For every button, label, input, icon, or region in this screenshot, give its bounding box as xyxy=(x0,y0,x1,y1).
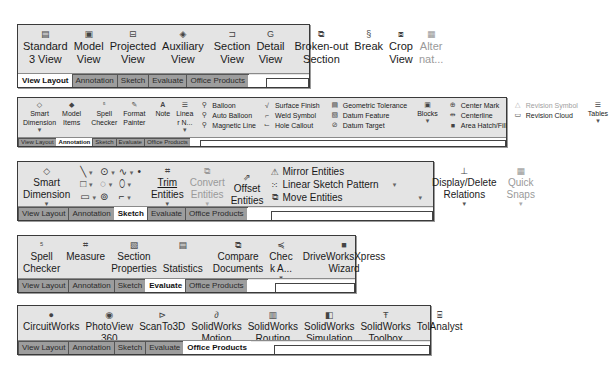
point-tool[interactable]: • xyxy=(137,166,141,177)
commandmanager-tabs: View Layout Annotation Sketch Evaluate O… xyxy=(18,73,309,87)
mirror-entities-button[interactable]: ⚠Mirror Entities xyxy=(270,165,423,178)
measure-button[interactable]: ⌗Measure xyxy=(63,239,108,263)
dropdown-caret-icon[interactable]: ▾ xyxy=(463,201,467,207)
geometric-tolerance-button[interactable]: ▤Geometric Tolerance xyxy=(330,100,407,110)
tab-office-products[interactable]: Office Products xyxy=(144,138,191,146)
tab-office-products[interactable]: Office Products xyxy=(183,341,251,354)
center-mark-button[interactable]: ⊕Center Mark xyxy=(448,100,507,110)
dropdown-caret-icon[interactable]: ▾ xyxy=(426,118,430,124)
quick-snaps-button[interactable]: ▦QuickSnaps▾ xyxy=(504,165,538,207)
tab-view-layout[interactable]: View Layout xyxy=(18,279,69,292)
datum-feature-button[interactable]: ▧Datum Feature xyxy=(330,110,407,120)
tab-annotation[interactable]: Annotation xyxy=(68,207,114,220)
spline-tool[interactable]: ∿ ▾ xyxy=(119,166,134,177)
detail-view-button[interactable]: GDetailView xyxy=(253,28,287,66)
display-delete-relations-button[interactable]: ⊥Display/DeleteRelations▾ xyxy=(429,165,499,207)
tab-view-layout[interactable]: View Layout xyxy=(18,74,73,87)
compare-documents-button[interactable]: ⧉CompareDocuments xyxy=(210,239,267,275)
tab-office-products[interactable]: Office Products xyxy=(185,207,248,220)
circuitworks-button[interactable]: ●CircuitWorks xyxy=(20,309,82,333)
ellipse-tool[interactable]: ⬯ ▾ xyxy=(119,178,134,190)
trim-entities-button[interactable]: ⌗TrimEntities▾ xyxy=(148,165,187,207)
magnetic-line-button[interactable]: ⚲Magnetic Line xyxy=(199,120,256,130)
tab-sketch[interactable]: Sketch xyxy=(114,279,146,292)
spell-checker-button[interactable]: ⁵SpellChecker xyxy=(88,100,120,127)
dropdown-caret-icon[interactable]: ▾ xyxy=(183,127,187,133)
tab-annotation[interactable]: Annotation xyxy=(68,279,114,292)
revision-symbol-button[interactable]: △Revision Symbol xyxy=(513,100,578,110)
datum-target-button[interactable]: ⊘Datum Target xyxy=(330,120,407,130)
fillet-tool[interactable]: ⌐ ▾ xyxy=(119,191,134,202)
dropdown-caret-icon[interactable]: ▾ xyxy=(519,201,523,207)
tab-evaluate[interactable]: Evaluate xyxy=(116,138,145,146)
weld-symbol-button[interactable]: ⌐Weld Symbol xyxy=(262,110,320,120)
solidworks-simulation-icon: ◧ xyxy=(323,309,335,321)
tab-sketch[interactable]: Sketch xyxy=(114,207,148,220)
format-painter-icon: ✎ xyxy=(128,100,140,109)
tab-sketch[interactable]: Sketch xyxy=(114,341,146,354)
area-hatch-fill-button[interactable]: ■Area Hatch/Fill xyxy=(448,120,507,130)
section-properties-button[interactable]: ▧SectionProperties xyxy=(108,239,160,275)
tab-scroll-area xyxy=(271,211,433,220)
tolanalyst-button[interactable]: ⌸TolAnalyst xyxy=(414,309,466,333)
smart-dimension-button[interactable]: ◇SmartDimension▾ xyxy=(20,165,73,207)
tab-evaluate[interactable]: Evaluate xyxy=(145,279,186,292)
slot-tool[interactable]: ▭ ▾ xyxy=(80,191,96,202)
tab-evaluate[interactable]: Evaluate xyxy=(148,74,187,87)
centerline-button[interactable]: ⇹Centerline xyxy=(448,110,507,120)
convert-entities-button[interactable]: ⧉ConvertEntities▾ xyxy=(187,165,228,207)
section-view-button[interactable]: ⊐SectionView xyxy=(211,28,254,66)
break-button[interactable]: §Break xyxy=(351,28,386,53)
move-entities-button[interactable]: ⧉Move Entities▾ xyxy=(270,191,423,204)
projected-view-button[interactable]: ⊟ProjectedView xyxy=(107,28,159,66)
model-items-button[interactable]: ◆ModelItems xyxy=(59,100,84,127)
slot-icon: ▭ xyxy=(80,191,89,202)
alternate-position-view-button[interactable]: ▦Alternat... xyxy=(416,28,446,66)
tab-annotation[interactable]: Annotation xyxy=(72,74,118,87)
tab-evaluate[interactable]: Evaluate xyxy=(145,341,184,354)
check-active-document-button[interactable]: ≼Check A...▾ xyxy=(266,239,295,281)
tab-view-layout[interactable]: View Layout xyxy=(18,207,69,220)
tab-annotation[interactable]: Annotation xyxy=(68,341,114,354)
tab-view-layout[interactable]: View Layout xyxy=(18,138,57,146)
surface-finish-button[interactable]: √Surface Finish xyxy=(262,100,320,110)
auto-balloon-button[interactable]: ⚲Auto Balloon xyxy=(199,110,256,120)
tab-sketch[interactable]: Sketch xyxy=(117,74,149,87)
tab-annotation[interactable]: Annotation xyxy=(56,138,94,146)
tab-office-products[interactable]: Office Products xyxy=(186,74,249,87)
tables-button[interactable]: ☰Tables▾ xyxy=(585,100,610,124)
offset-entities-button[interactable]: ⇗OffsetEntities xyxy=(228,165,267,207)
crop-view-button[interactable]: ⧈CropView xyxy=(386,28,416,66)
hole-callout-button[interactable]: ⌙Hole Callout xyxy=(262,120,320,130)
auxiliary-view-button[interactable]: ◈AuxiliaryView xyxy=(159,28,207,66)
linear-note-pattern-button[interactable]: ☰Linear N...▾ xyxy=(173,100,196,133)
tab-view-layout[interactable]: View Layout xyxy=(18,341,69,354)
rectangle-tool[interactable]: □ ▾ xyxy=(80,178,96,190)
smart-dimension-button[interactable]: ◇SmartDimension▾ xyxy=(20,100,59,133)
driveworksxpress-wizard-button[interactable]: ■DriveWorksXpressWizard xyxy=(300,239,389,275)
format-painter-button[interactable]: ✎FormatPainter xyxy=(120,100,148,127)
statistics-button[interactable]: ▤ Statistics xyxy=(160,239,206,275)
centerline-icon: ⇹ xyxy=(448,111,458,119)
dropdown-caret-icon[interactable]: ▾ xyxy=(393,181,397,189)
broken-out-section-button[interactable]: ⧉Broken-outSection xyxy=(292,28,352,66)
dropdown-caret-icon[interactable]: ▾ xyxy=(419,194,423,202)
linear-sketch-pattern-button[interactable]: ⁙Linear Sketch Pattern▾ xyxy=(270,178,423,191)
tab-office-products[interactable]: Office Products xyxy=(185,279,248,292)
blocks-button[interactable]: ▣Blocks▾ xyxy=(414,100,441,124)
dropdown-caret-icon[interactable]: ▾ xyxy=(38,127,42,133)
tab-sketch[interactable]: Sketch xyxy=(92,138,116,146)
scanto3d-button[interactable]: ⊳ScanTo3D xyxy=(136,309,188,333)
circle-tool[interactable]: ⊙ ▾ xyxy=(100,166,115,177)
spell-checker-button[interactable]: ⁵SpellChecker xyxy=(20,239,63,275)
model-view-button[interactable]: ▣ModelView xyxy=(71,28,107,66)
note-button[interactable]: ANote xyxy=(152,100,173,118)
line-tool[interactable]: ╲ ▾ xyxy=(80,166,96,177)
revision-cloud-button[interactable]: ▭Revision Cloud xyxy=(513,110,578,120)
arc-tool[interactable]: ◌ ▾ xyxy=(100,178,115,190)
dropdown-caret-icon[interactable]: ▾ xyxy=(596,118,600,124)
polygon-tool[interactable]: ⊚ xyxy=(100,191,115,202)
tab-evaluate[interactable]: Evaluate xyxy=(147,207,186,220)
standard-3-view-button[interactable]: ▤Standard3 View xyxy=(20,28,71,66)
balloon-button[interactable]: ⚲Balloon xyxy=(199,100,256,110)
